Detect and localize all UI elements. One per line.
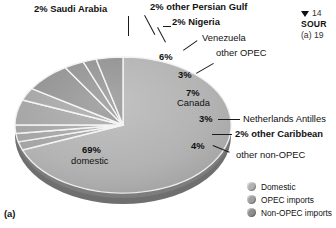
caption-figure-line: 14 [301, 8, 336, 19]
label-saudi-arabia: 2% Saudi Arabia [34, 4, 107, 14]
legend-item-non-opec-imports: Non-OPEC imports [247, 206, 332, 219]
value-other-non-opec: 4% [191, 141, 205, 151]
label-other-non-opec: other non-OPEC [236, 150, 305, 160]
legend-label-non-opec-imports: Non-OPEC imports [261, 208, 332, 218]
legend-swatch-opec-imports [247, 195, 256, 204]
label-domestic: domestic [71, 156, 109, 166]
legend-label-opec-imports: OPEC imports [261, 195, 314, 205]
caption-note: (a) 19 [301, 30, 336, 41]
label-nigeria: 2% Nigeria [172, 17, 220, 27]
caption-figure-number: 14 [312, 8, 322, 19]
leader-nigeria-tick [163, 26, 171, 27]
legend-item-domestic: Domestic [247, 180, 332, 193]
legend-label-domestic: Domestic [261, 182, 296, 192]
legend-swatch-non-opec-imports [247, 208, 256, 217]
triangle-down-icon [301, 11, 309, 17]
leader-other-caribbean [212, 134, 232, 135]
value-venezuela: 6% [159, 52, 173, 62]
label-other-persian-gulf: 2% other Persian Gulf [150, 2, 247, 12]
pie-slices [15, 57, 231, 193]
leader-netherlands-antilles [218, 119, 240, 120]
pie-chart-figure: 2% Saudi Arabia 2% other Persian Gulf 2%… [0, 0, 336, 228]
label-other-caribbean: 2% other Caribbean [235, 129, 323, 139]
leader-saudi-arabia [128, 16, 129, 36]
value-netherlands-antilles: 3% [199, 114, 213, 124]
label-venezuela: Venezuela [202, 33, 246, 43]
value-domestic: 69% [82, 145, 101, 155]
figure-caption-block: 14 SOUR (a) 19 [301, 8, 336, 41]
legend-item-opec-imports: OPEC imports [247, 193, 332, 206]
label-canada: Canada [177, 98, 210, 108]
chart-legend: Domestic OPEC imports Non-OPEC imports [247, 180, 332, 219]
caption-source-label: SOUR [301, 19, 336, 30]
label-other-opec: other OPEC [216, 48, 267, 58]
value-other-opec: 3% [178, 70, 192, 80]
label-netherlands-antilles: Netherlands Antilles [243, 114, 326, 124]
panel-label-a: (a) [4, 208, 15, 219]
legend-swatch-domestic [247, 182, 256, 191]
